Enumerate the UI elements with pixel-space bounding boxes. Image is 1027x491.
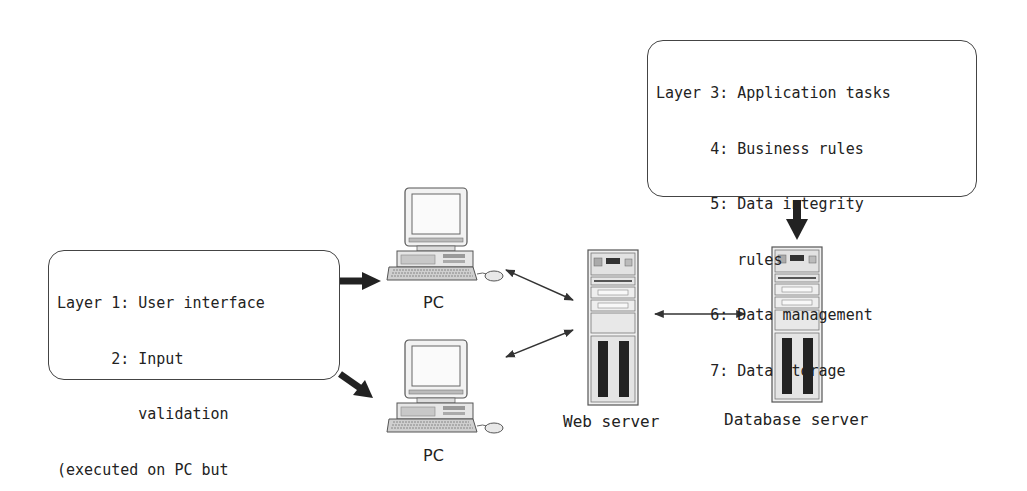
pc-bottom-icon [387,340,503,433]
thick-arrow-to-pc-bottom [340,374,373,398]
web-server-label: Web server [563,412,659,431]
pc-bottom-label: PC [423,446,444,465]
database-server-label: Database server [724,410,869,429]
server-layer-line: rules [656,251,968,270]
client-layers-box: Layer 1: User interface 2: Input validat… [48,250,340,380]
server-layer-line: 5: Data integrity [656,195,968,214]
server-layers-box: Layer 3: Application tasks 4: Business r… [647,40,977,197]
pc-top-label: PC [423,293,444,312]
thick-arrow-to-pc-top [340,272,381,290]
client-layer-line: (executed on PC but [57,461,331,480]
server-layer-line: 6: Data management [656,306,968,325]
server-layer-line: Layer 3: Application tasks [656,84,968,103]
server-layer-line: 4: Business rules [656,140,968,159]
web-server-icon [588,250,638,405]
client-layer-line: validation [57,405,331,424]
server-layer-line: 7: Data storage [656,362,968,381]
link-pc-top-web-server [506,270,573,300]
link-pc-bottom-web-server [506,330,573,357]
client-layer-line: Layer 1: User interface [57,294,331,313]
client-layer-line: 2: Input [57,350,331,369]
pc-top-icon [387,188,503,281]
